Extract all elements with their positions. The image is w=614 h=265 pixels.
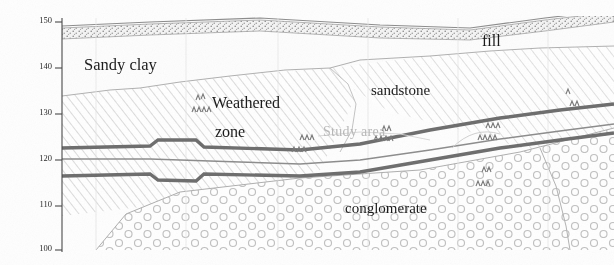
- label-sandy-clay: Sandy clay: [84, 56, 157, 74]
- elevation-axis-graphics: [55, 18, 62, 252]
- label-weathered-zone-line1: Weathered: [212, 94, 280, 111]
- axis-tick-110: 110: [26, 199, 52, 209]
- axis-tick-140: 140: [26, 61, 52, 71]
- axis-tick-130: 130: [26, 107, 52, 117]
- axis-tick-150: 150: [26, 15, 52, 25]
- label-conglomerate: conglomerate: [345, 200, 427, 216]
- label-fill: fill: [482, 32, 501, 49]
- geological-cross-section-figure: 150 140 130 120 110 100 Sandy clay Weath…: [0, 0, 614, 265]
- label-weathered-zone-line2: zone: [215, 123, 245, 140]
- axis-tick-100: 100: [26, 243, 52, 253]
- section-graphics: [0, 0, 614, 265]
- label-sandstone: sandstone: [371, 82, 430, 98]
- label-study-area: Study area: [323, 124, 385, 139]
- axis-tick-120: 120: [26, 153, 52, 163]
